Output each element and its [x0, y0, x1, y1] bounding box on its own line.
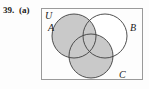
- set-label-b: B: [130, 22, 136, 33]
- set-label-a: A: [47, 22, 55, 33]
- venn-diagram-canvas: U A B C: [0, 0, 149, 89]
- venn-diagram: U A B C: [0, 0, 149, 89]
- universe-label: U: [45, 10, 53, 21]
- set-label-c: C: [119, 69, 126, 80]
- figure-panel: 39. (a) U: [0, 0, 149, 89]
